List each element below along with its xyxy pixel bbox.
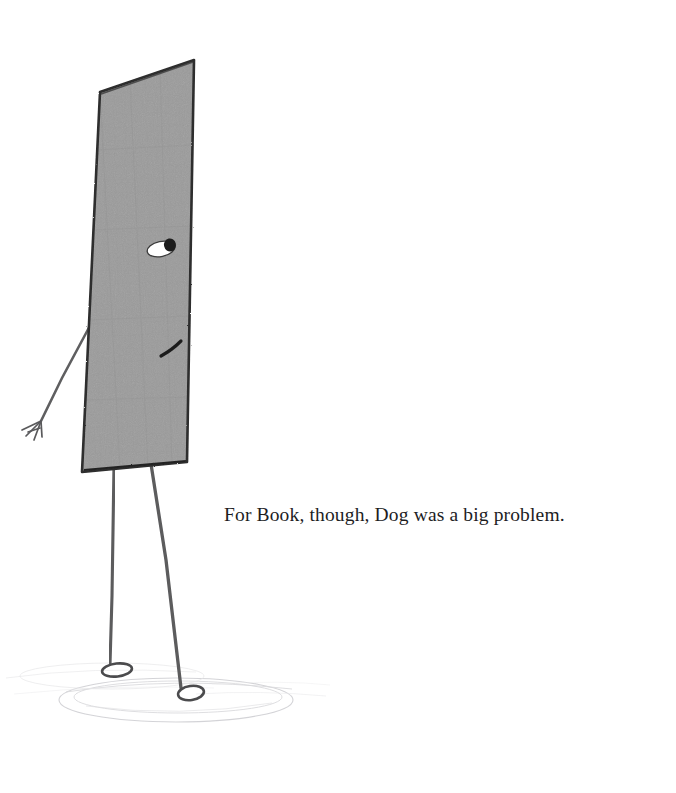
book-hand xyxy=(22,421,42,440)
caption-text: For Book, though, Dog was a big problem. xyxy=(224,503,654,527)
book-leg-left xyxy=(110,466,114,664)
illustration xyxy=(0,0,676,793)
book-leg-right xyxy=(151,464,181,688)
book-page: For Book, though, Dog was a big problem. xyxy=(0,0,676,793)
book-body xyxy=(82,60,194,472)
ground-shadow xyxy=(6,663,330,722)
